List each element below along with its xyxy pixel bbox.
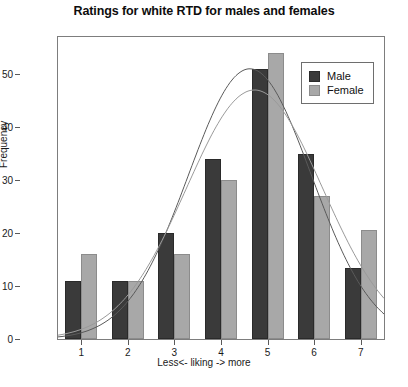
legend-swatch-female-icon <box>309 85 320 96</box>
bar-male-6 <box>298 154 314 339</box>
bar-female-5 <box>268 53 284 339</box>
legend-item-male: Male <box>309 70 364 82</box>
bar-female-6 <box>314 196 330 339</box>
bar-female-4 <box>221 180 237 339</box>
bar-male-2 <box>112 281 128 339</box>
x-tick-label-5: 5 <box>258 347 278 358</box>
bar-male-5 <box>252 69 268 339</box>
x-tick-6 <box>314 340 315 345</box>
chart-title: Ratings for white RTD for males and fema… <box>0 4 408 18</box>
x-tick-2 <box>128 340 129 345</box>
y-tick-label-50: 50 <box>2 69 13 80</box>
bar-male-1 <box>65 281 81 339</box>
x-tick-1 <box>81 340 82 345</box>
y-tick-0 <box>15 339 20 340</box>
x-tick-label-6: 6 <box>304 347 324 358</box>
x-tick-label-2: 2 <box>118 347 138 358</box>
y-tick-50 <box>15 74 20 75</box>
chart-figure: Ratings for white RTD for males and fema… <box>0 0 408 387</box>
x-tick-label-7: 7 <box>351 347 371 358</box>
bar-female-7 <box>361 230 377 339</box>
x-tick-7 <box>361 340 362 345</box>
y-tick-label-30: 30 <box>2 175 13 186</box>
bar-male-7 <box>345 268 361 340</box>
chart-legend: Male Female <box>301 62 374 104</box>
x-tick-label-3: 3 <box>164 347 184 358</box>
x-tick-label-4: 4 <box>211 347 231 358</box>
bar-female-1 <box>81 254 97 339</box>
y-tick-10 <box>15 286 20 287</box>
legend-label-male: Male <box>327 70 351 82</box>
y-tick-40 <box>15 127 20 128</box>
y-tick-label-10: 10 <box>2 281 13 292</box>
y-tick-label-20: 20 <box>2 228 13 239</box>
bar-male-3 <box>158 233 174 339</box>
x-tick-label-1: 1 <box>71 347 91 358</box>
y-tick-30 <box>15 180 20 181</box>
y-tick-20 <box>15 233 20 234</box>
y-tick-label-0: 0 <box>7 334 13 345</box>
y-tick-label-40: 40 <box>2 122 13 133</box>
bar-female-3 <box>174 254 190 339</box>
x-tick-4 <box>221 340 222 345</box>
legend-swatch-male-icon <box>309 71 320 82</box>
bar-male-4 <box>205 159 221 339</box>
legend-item-female: Female <box>309 84 364 96</box>
x-tick-3 <box>174 340 175 345</box>
x-axis-label: Less<- liking -> more <box>0 357 408 368</box>
bar-female-2 <box>128 281 144 339</box>
legend-label-female: Female <box>327 84 364 96</box>
x-tick-5 <box>268 340 269 345</box>
